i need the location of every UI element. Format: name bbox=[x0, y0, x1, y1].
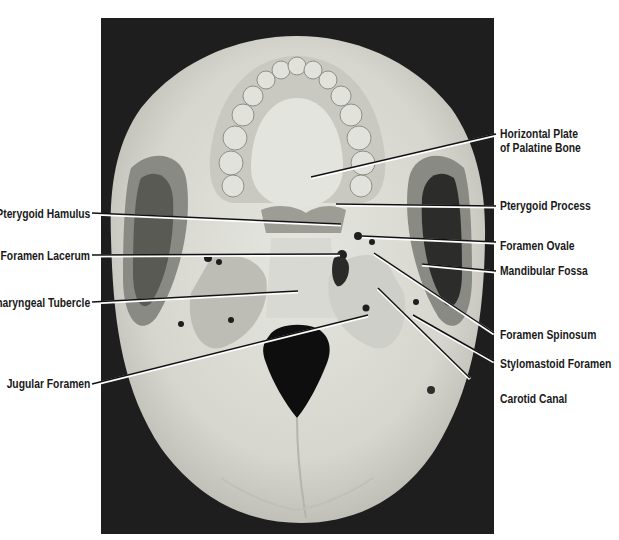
label-jugular-foramen: Jugular Foramen bbox=[6, 377, 90, 391]
label-pharyngeal-tubercle: Pharyngeal Tubercle bbox=[0, 296, 90, 310]
foramen-spinosum-hole bbox=[369, 239, 375, 245]
label-foramen-lacerum: Foramen Lacerum bbox=[1, 249, 90, 263]
skull-photograph bbox=[101, 18, 494, 534]
label-horizontal-plate-line1: Horizontal Plate bbox=[500, 127, 578, 141]
label-horizontal-plate-line2: of Palatine Bone bbox=[500, 141, 581, 155]
label-foramen-ovale: Foramen Ovale bbox=[500, 239, 575, 253]
label-carotid-canal: Carotid Canal bbox=[500, 392, 567, 406]
label-stylomastoid-foramen: Stylomastoid Foramen bbox=[500, 357, 611, 371]
foramen-ovale-hole bbox=[354, 232, 362, 240]
label-pterygoid-hamulus: Pterygoid Hamulus bbox=[0, 207, 90, 221]
label-mandibular-fossa: Mandibular Fossa bbox=[500, 264, 588, 278]
label-pterygoid-process: Pterygoid Process bbox=[500, 199, 591, 213]
jugular-foramen-hole bbox=[363, 305, 370, 312]
skull-illustration bbox=[101, 18, 494, 534]
label-foramen-spinosum: Foramen Spinosum bbox=[500, 328, 596, 342]
stylomastoid-foramen-hole bbox=[413, 299, 419, 305]
